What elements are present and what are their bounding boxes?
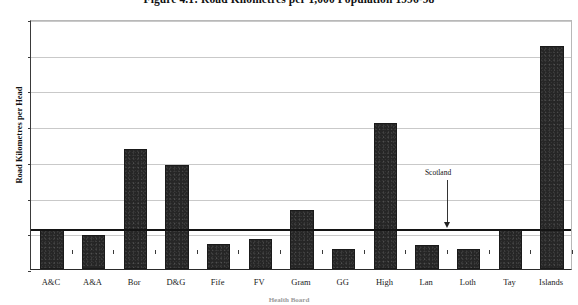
y-tick-mark — [28, 92, 31, 93]
bar-islands[interactable] — [540, 46, 563, 269]
x-tick-mark — [447, 250, 448, 254]
x-tick-mark — [280, 250, 281, 254]
bar-aanda[interactable] — [82, 235, 105, 269]
x-tick-label-lan: Lan — [405, 277, 447, 287]
bar-lan[interactable] — [415, 245, 438, 269]
x-tick-mark — [72, 250, 73, 254]
x-tick-label-gram: Gram — [280, 277, 322, 287]
x-tick-mark — [364, 250, 365, 254]
scotland-annotation-label: Scotland — [425, 168, 451, 177]
chart-title: Figure 4.1: Road Kilometres per 1,000 Po… — [0, 0, 578, 5]
chart-figure: Figure 4.1: Road Kilometres per 1,000 Po… — [0, 0, 578, 305]
y-tick-mark — [28, 235, 31, 236]
x-tick-label-islands: Islands — [530, 277, 572, 287]
bar-gram[interactable] — [290, 210, 313, 269]
x-tick-mark — [572, 250, 573, 254]
y-tick-mark — [28, 164, 31, 165]
plot-area: 010203040506070 — [30, 20, 572, 270]
x-tick-label-fife: Fife — [197, 277, 239, 287]
gridline — [31, 200, 571, 201]
x-tick-label-bor: Bor — [113, 277, 155, 287]
gridline — [31, 164, 571, 165]
x-tick-label-aanda: A&A — [72, 277, 114, 287]
y-tick-mark — [28, 57, 31, 58]
bar-aandc[interactable] — [40, 229, 63, 269]
x-tick-mark — [530, 250, 531, 254]
x-tick-label-tay: Tay — [489, 277, 531, 287]
bar-loth[interactable] — [457, 249, 480, 269]
x-tick-label-high: High — [364, 277, 406, 287]
y-tick-mark — [28, 271, 31, 272]
gridline — [31, 57, 571, 58]
y-axis-title: Road Kilometres per Head — [14, 60, 24, 210]
bar-bor[interactable] — [124, 149, 147, 269]
x-tick-mark — [155, 250, 156, 254]
gridline — [31, 21, 571, 22]
scotland-reference-line — [31, 229, 571, 231]
y-tick-mark — [28, 200, 31, 201]
scotland-arrow-head-icon — [444, 222, 450, 228]
x-tick-label-aandc: A&C — [30, 277, 72, 287]
x-tick-mark — [30, 250, 31, 254]
scotland-arrow-line — [447, 180, 448, 222]
gridline — [31, 128, 571, 129]
bar-fv[interactable] — [249, 239, 272, 269]
x-tick-mark — [489, 250, 490, 254]
bar-fife[interactable] — [207, 244, 230, 269]
x-axis-title: Health Board — [0, 296, 578, 304]
x-tick-mark — [322, 250, 323, 254]
x-tick-mark — [197, 250, 198, 254]
bar-tay[interactable] — [499, 229, 522, 269]
x-tick-mark — [113, 250, 114, 254]
bar-high[interactable] — [374, 123, 397, 269]
y-tick-mark — [28, 128, 31, 129]
x-tick-label-loth: Loth — [447, 277, 489, 287]
y-tick-mark — [28, 21, 31, 22]
x-tick-label-fv: FV — [238, 277, 280, 287]
x-tick-label-gg: GG — [322, 277, 364, 287]
bar-gg[interactable] — [332, 249, 355, 269]
x-tick-label-dandg: D&G — [155, 277, 197, 287]
gridline — [31, 92, 571, 93]
x-tick-mark — [405, 250, 406, 254]
x-tick-mark — [238, 250, 239, 254]
bar-dandg[interactable] — [165, 165, 188, 269]
